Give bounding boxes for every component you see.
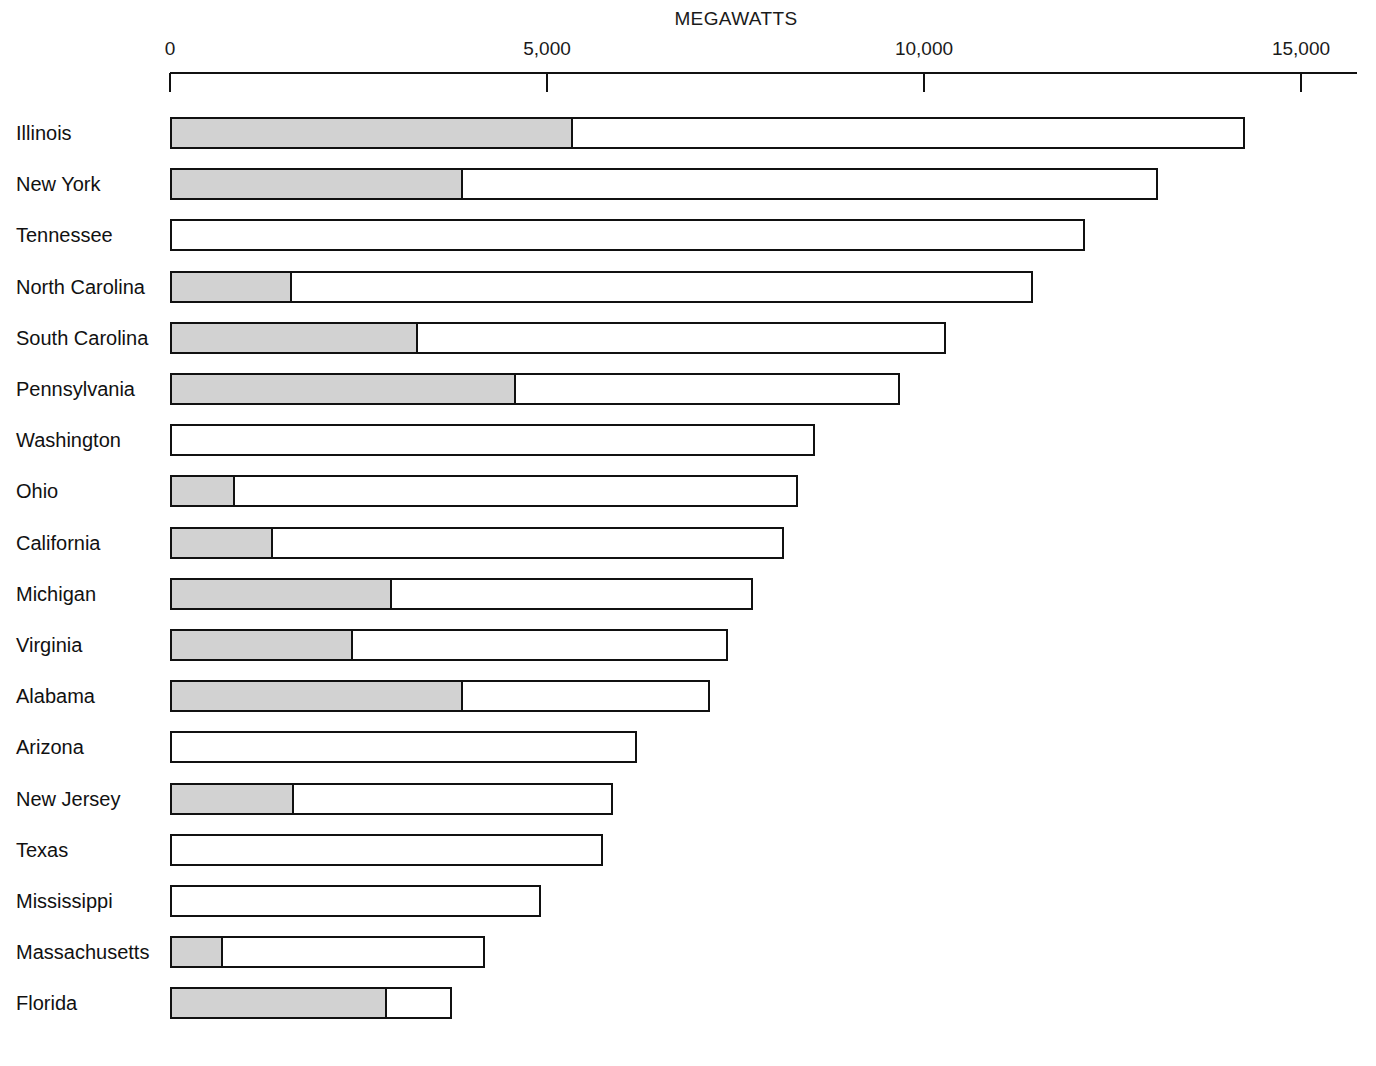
bar <box>170 936 485 968</box>
x-axis-tick <box>169 73 171 92</box>
bar-row: Texas <box>0 834 1376 885</box>
bar-row-label: California <box>16 527 100 559</box>
bar-row-label: South Carolina <box>16 322 148 354</box>
bar-row-label: North Carolina <box>16 271 145 303</box>
bar-row: New York <box>0 168 1376 219</box>
bar-row-label: Texas <box>16 834 68 866</box>
bar-row-label: Pennsylvania <box>16 373 135 405</box>
bar-row: Alabama <box>0 680 1376 731</box>
bar <box>170 271 1033 303</box>
bar-shaded-segment <box>172 785 294 813</box>
bar-row-label: New York <box>16 168 101 200</box>
bar-row-label: Illinois <box>16 117 72 149</box>
bar-row: Virginia <box>0 629 1376 680</box>
bar-shaded-segment <box>172 631 353 659</box>
bar <box>170 168 1158 200</box>
bar-row: California <box>0 527 1376 578</box>
bar-row: Florida <box>0 987 1376 1038</box>
bar-shaded-segment <box>172 324 418 352</box>
bar <box>170 680 710 712</box>
bar-row-label: Washington <box>16 424 121 456</box>
bar-row-label: Arizona <box>16 731 84 763</box>
bar-row: Mississippi <box>0 885 1376 936</box>
bar-row-label: Ohio <box>16 475 58 507</box>
bar <box>170 731 637 763</box>
bar <box>170 885 541 917</box>
bar-shaded-segment <box>172 682 463 710</box>
bar-row: Pennsylvania <box>0 373 1376 424</box>
bar-row-label: Tennessee <box>16 219 113 251</box>
bar-row: Michigan <box>0 578 1376 629</box>
bar <box>170 424 815 456</box>
bar <box>170 322 946 354</box>
bar-shaded-segment <box>172 273 292 301</box>
bar <box>170 629 728 661</box>
bar-row: Tennessee <box>0 219 1376 270</box>
bar-row-label: Massachusetts <box>16 936 149 968</box>
bar-row: North Carolina <box>0 271 1376 322</box>
bar-shaded-segment <box>172 119 573 147</box>
bar <box>170 783 613 815</box>
bar <box>170 373 900 405</box>
bar-shaded-segment <box>172 375 516 403</box>
bar-row: Ohio <box>0 475 1376 526</box>
bar-shaded-segment <box>172 989 387 1017</box>
horizontal-bar-chart: MEGAWATTS 05,00010,00015,000 IllinoisNew… <box>0 0 1376 1066</box>
x-axis-tick <box>923 73 925 92</box>
bar <box>170 578 753 610</box>
bar-row: Illinois <box>0 117 1376 168</box>
bar-shaded-segment <box>172 477 235 505</box>
bar-rows: IllinoisNew YorkTennesseeNorth CarolinaS… <box>0 0 1376 1066</box>
bar-row: Massachusetts <box>0 936 1376 987</box>
bar-row: Arizona <box>0 731 1376 782</box>
bar-shaded-segment <box>172 170 463 198</box>
bar-row: New Jersey <box>0 783 1376 834</box>
bar <box>170 527 784 559</box>
bar-row: Washington <box>0 424 1376 475</box>
bar-row-label: New Jersey <box>16 783 120 815</box>
bar-row-label: Florida <box>16 987 77 1019</box>
bar-shaded-segment <box>172 580 392 608</box>
bar-row-label: Mississippi <box>16 885 113 917</box>
x-axis-tick <box>546 73 548 92</box>
bar <box>170 987 452 1019</box>
bar <box>170 834 603 866</box>
bar-row-label: Virginia <box>16 629 82 661</box>
bar-shaded-segment <box>172 938 223 966</box>
bar <box>170 117 1245 149</box>
bar <box>170 219 1085 251</box>
x-axis-tick <box>1300 73 1302 92</box>
bar <box>170 475 798 507</box>
bar-row-label: Michigan <box>16 578 96 610</box>
bar-row: South Carolina <box>0 322 1376 373</box>
bar-shaded-segment <box>172 529 273 557</box>
bar-row-label: Alabama <box>16 680 95 712</box>
